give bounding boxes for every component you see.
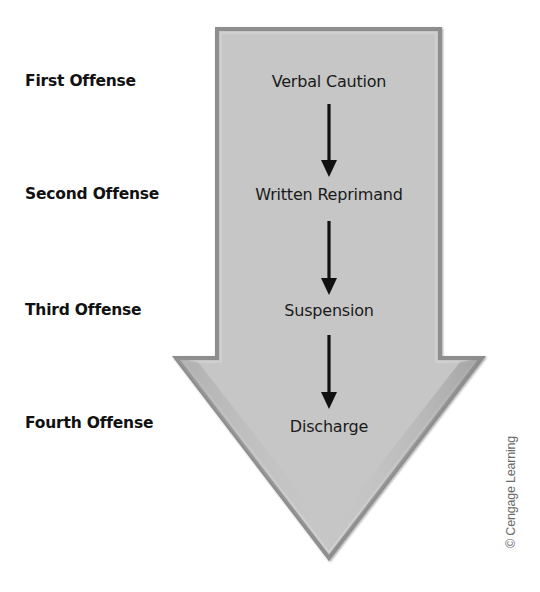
progressive-discipline-diagram: First Offense Second Offense Third Offen… xyxy=(0,0,540,592)
action-label-written-reprimand: Written Reprimand xyxy=(219,185,439,204)
action-label-discharge: Discharge xyxy=(219,417,439,436)
action-label-verbal-caution: Verbal Caution xyxy=(219,72,439,91)
action-label-suspension: Suspension xyxy=(219,301,439,320)
offense-label-fourth: Fourth Offense xyxy=(25,414,153,432)
offense-label-first: First Offense xyxy=(25,72,136,90)
offense-label-second: Second Offense xyxy=(25,185,159,203)
offense-label-third: Third Offense xyxy=(25,301,141,319)
copyright-credit: © Cengage Learning xyxy=(504,436,518,548)
